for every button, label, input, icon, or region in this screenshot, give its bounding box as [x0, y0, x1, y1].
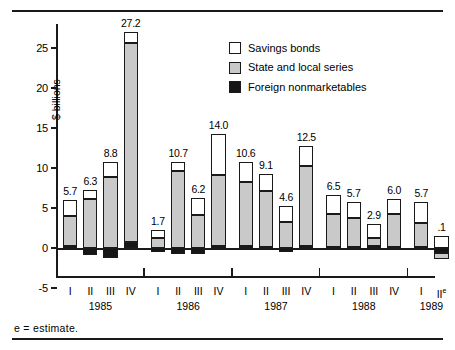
x-tick-label-quarter: IV	[383, 286, 405, 297]
legend-item-foreign: Foreign nonmarketables	[229, 79, 367, 95]
bar-segment-foreign-nonmarketables	[151, 248, 165, 252]
bar-group: 8.8	[103, 24, 117, 276]
bar-segment-state-and-local-series	[347, 218, 361, 247]
y-tick-label: 0	[18, 243, 48, 254]
legend-swatch-icon	[229, 62, 241, 74]
bar-segment-savings-bonds	[103, 162, 117, 177]
x-tick-label-quarter: III	[187, 286, 209, 297]
legend-swatch-icon	[229, 42, 241, 54]
bar-segment-state-and-local-series	[83, 199, 97, 248]
bar-segment-state-and-local-series	[239, 182, 253, 247]
bottom-rule	[12, 338, 443, 340]
x-axis-year-label: 1988	[341, 301, 387, 312]
bar-value-label: 5.7	[339, 188, 369, 199]
bar-segment-state-and-local-series	[387, 214, 401, 247]
bar-segment-state-and-local-series	[151, 238, 165, 248]
estimate-superscript: e	[442, 287, 446, 294]
bar-value-label: 4.6	[271, 192, 301, 203]
bar-segment-savings-bonds	[259, 174, 273, 191]
y-tick-label: 5	[18, 203, 48, 214]
bar-segment-foreign-nonmarketables	[387, 247, 401, 249]
bar-segment-savings-bonds	[414, 202, 428, 224]
bar-segment-savings-bonds	[124, 32, 138, 43]
bar-segment-savings-bonds	[83, 190, 97, 199]
top-rule	[12, 10, 443, 12]
x-tick-label-quarter: I	[59, 286, 81, 297]
bar-segment-savings-bonds	[63, 200, 77, 216]
x-axis-year-label: 1985	[77, 301, 123, 312]
x-tick-label-quarter: III	[275, 286, 297, 297]
x-axis-group-separator	[407, 268, 409, 277]
legend-item-label: Savings bonds	[248, 43, 320, 54]
bar-value-label: 6.0	[379, 185, 409, 196]
y-tick-label: 25	[18, 43, 48, 54]
bar-group: 5.7	[414, 24, 428, 276]
bar-segment-savings-bonds	[211, 134, 225, 175]
footnote: e = estimate.	[14, 323, 78, 334]
bar-value-label: 5.7	[406, 188, 436, 199]
bar-group: .1	[434, 24, 448, 276]
x-tick-label-quarter: I	[147, 286, 169, 297]
bar-segment-savings-bonds	[279, 206, 293, 221]
bar-segment-state-and-local-series	[279, 222, 293, 248]
bar-segment-savings-bonds	[387, 199, 401, 214]
bar-segment-foreign-nonmarketables	[124, 242, 138, 248]
bar-segment-state-and-local-series	[434, 253, 448, 259]
bar-value-label: 27.2	[116, 18, 146, 29]
x-tick-label-quarter: IV	[120, 286, 142, 297]
bar-segment-foreign-nonmarketables	[63, 246, 77, 248]
bar-segment-state-and-local-series	[124, 43, 138, 241]
x-tick-label-quarter: IV	[208, 286, 230, 297]
bar-value-label: 6.3	[75, 176, 105, 187]
bar-value-label: 12.5	[291, 132, 321, 143]
chart-figure: $ billions 2520151050-5 5.76.38.827.21.7…	[0, 0, 455, 350]
bar-group: 14.0	[211, 24, 225, 276]
bar-segment-foreign-nonmarketables	[259, 247, 273, 249]
bar-value-label: 10.6	[231, 148, 261, 159]
bar-segment-foreign-nonmarketables	[239, 246, 253, 248]
y-tick-label: 15	[18, 123, 48, 134]
bar-segment-foreign-nonmarketables	[414, 247, 428, 249]
bar-segment-state-and-local-series	[299, 166, 313, 247]
bar-value-label: 10.7	[163, 148, 193, 159]
bar-group: 5.7	[63, 24, 77, 276]
x-axis-year-label: 1989	[408, 301, 454, 312]
x-tick-label-quarter: I	[323, 286, 345, 297]
x-axis-year-label: 1987	[253, 301, 299, 312]
bar-group: 10.7	[171, 24, 185, 276]
x-axis-group-separator	[231, 268, 233, 277]
x-tick-label-quarter: II	[79, 286, 101, 297]
bar-value-label: 9.1	[251, 160, 281, 171]
bar-segment-savings-bonds	[191, 198, 205, 215]
legend-swatch-icon	[229, 81, 241, 93]
bar-segment-foreign-nonmarketables	[103, 248, 117, 258]
bar-value-label: 2.9	[359, 210, 389, 221]
y-tick-label: 10	[18, 163, 48, 174]
legend-item-state_local: State and local series	[229, 60, 367, 76]
bar-segment-savings-bonds	[299, 146, 313, 165]
bar-group: 6.2	[191, 24, 205, 276]
bar-segment-foreign-nonmarketables	[367, 246, 381, 248]
bar-group: 2.9	[367, 24, 381, 276]
x-tick-label-quarter: III	[100, 286, 122, 297]
x-tick-label-quarter: II	[167, 286, 189, 297]
bar-segment-savings-bonds	[171, 162, 185, 171]
bar-segment-state-and-local-series	[171, 171, 185, 248]
bar-segment-state-and-local-series	[63, 216, 77, 246]
x-axis-group-separator	[143, 268, 145, 277]
bar-value-label: 14.0	[203, 120, 233, 131]
bar-segment-savings-bonds	[367, 224, 381, 238]
bar-segment-foreign-nonmarketables	[279, 248, 293, 252]
x-axis-group-separator	[319, 268, 321, 277]
bar-value-label: 1.7	[143, 216, 173, 227]
x-tick-label-quarter: IV	[295, 286, 317, 297]
bar-segment-state-and-local-series	[103, 177, 117, 248]
legend: Savings bondsState and local seriesForei…	[229, 40, 367, 99]
bar-value-label: .1	[426, 222, 455, 233]
bar-value-label: 8.8	[95, 148, 125, 159]
x-tick-label-quarter: III	[363, 286, 385, 297]
bar-segment-state-and-local-series	[326, 214, 340, 247]
bar-segment-foreign-nonmarketables	[299, 246, 313, 248]
bar-segment-state-and-local-series	[367, 238, 381, 246]
bar-value-label: 6.2	[183, 184, 213, 195]
